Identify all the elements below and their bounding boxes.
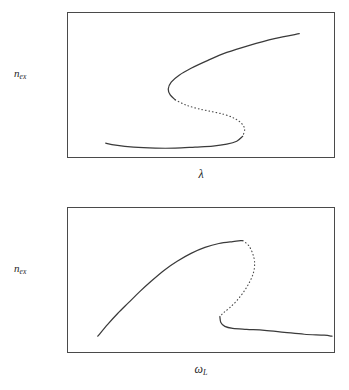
y-axis-label-bottom-base: n (14, 262, 20, 274)
y-axis-label-top-subscript: ex (20, 72, 27, 81)
x-axis-label-top: λ (67, 168, 335, 180)
y-axis-label-top: nex (14, 68, 66, 79)
x-axis-label-bottom-base: ω (195, 362, 203, 376)
plot-frame-top (67, 12, 335, 158)
y-axis-label-top-base: n (14, 67, 20, 79)
x-axis-label-bottom: ωL (67, 363, 335, 375)
x-axis-label-bottom-subscript: L (203, 368, 207, 377)
curve-lower-stable-branch-bottom (220, 316, 332, 336)
panel-top: nex λ (0, 0, 349, 195)
x-axis-label-top-base: λ (198, 167, 203, 181)
curve-lower-stable-branch-top (106, 136, 243, 148)
y-axis-label-bottom: nex (14, 263, 66, 274)
curve-unstable-branch-top (175, 100, 244, 136)
y-axis-label-bottom-subscript: ex (20, 267, 27, 276)
curve-unstable-branch-bottom (220, 241, 255, 317)
figure-container: nex λ nex ωL (0, 0, 349, 390)
plot-svg-bottom (68, 208, 334, 352)
plot-frame-bottom (67, 207, 335, 353)
plot-svg-top (68, 13, 334, 157)
curve-upper-stable-branch-top (168, 34, 299, 100)
panel-bottom: nex ωL (0, 195, 349, 390)
